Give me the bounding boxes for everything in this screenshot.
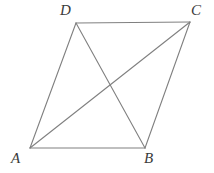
side-BC	[145, 22, 190, 148]
vertex-label-D: D	[60, 3, 71, 18]
side-CD	[76, 22, 190, 23]
parallelogram-diagram	[0, 0, 214, 173]
geometry-figure: D C A B	[0, 0, 214, 173]
vertex-label-B: B	[144, 151, 153, 166]
vertex-label-C: C	[191, 3, 201, 18]
diagonal-DB	[76, 23, 145, 148]
vertex-label-A: A	[11, 151, 20, 166]
